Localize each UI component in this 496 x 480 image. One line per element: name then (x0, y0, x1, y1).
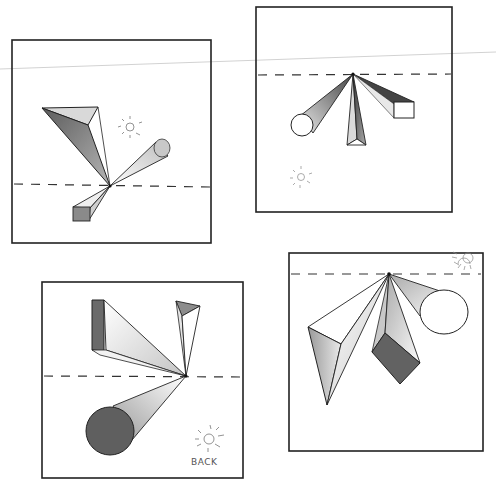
panel-bottom-right (0, 0, 496, 480)
sun-icon (452, 252, 473, 270)
